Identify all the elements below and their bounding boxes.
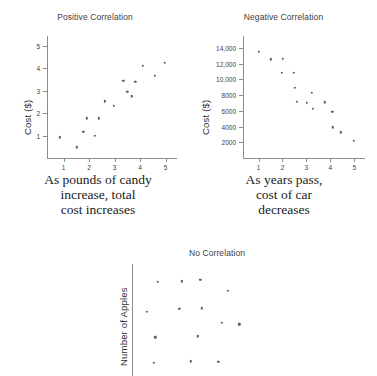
data-point bbox=[154, 74, 156, 76]
data-point bbox=[197, 335, 199, 337]
data-point bbox=[201, 307, 203, 309]
y-axis-tick bbox=[239, 64, 243, 65]
y-axis-tick bbox=[239, 127, 243, 128]
y-axis-tick-label: 1 bbox=[36, 132, 40, 139]
plot-area-none bbox=[132, 264, 282, 376]
x-axis-tick bbox=[89, 158, 90, 162]
data-point bbox=[294, 86, 296, 88]
data-point bbox=[126, 91, 128, 93]
y-axis-label-negative: Cost ($) bbox=[200, 100, 211, 135]
x-axis-tick-label: 3 bbox=[113, 164, 117, 171]
caption-line: As pounds of candy bbox=[8, 172, 188, 187]
data-point bbox=[122, 79, 124, 81]
y-axis-tick bbox=[239, 48, 243, 49]
x-axis-tick bbox=[64, 158, 65, 162]
chart-title-none: No Correlation bbox=[122, 248, 312, 258]
caption-line: increase, total bbox=[8, 187, 188, 202]
data-point bbox=[340, 131, 342, 133]
y-axis-tick-label: 14,000 bbox=[216, 44, 236, 51]
data-point bbox=[293, 72, 295, 74]
x-axis-tick-label: 2 bbox=[281, 164, 285, 171]
x-axis-tick bbox=[306, 158, 307, 162]
x-axis-tick-label: 1 bbox=[257, 164, 261, 171]
data-point bbox=[199, 278, 201, 280]
data-point bbox=[154, 336, 156, 338]
data-point bbox=[332, 126, 334, 128]
y-axis-tick bbox=[239, 111, 243, 112]
data-point bbox=[217, 361, 219, 363]
y-axis-line bbox=[132, 264, 133, 376]
data-point bbox=[331, 111, 333, 113]
data-point bbox=[353, 140, 355, 142]
caption-line: cost increases bbox=[8, 202, 188, 217]
x-axis-tick-label: 5 bbox=[164, 164, 168, 171]
y-axis-tick-label: 2000 bbox=[222, 139, 236, 146]
y-axis-tick bbox=[43, 46, 47, 47]
caption-negative: As years pass, cost of car decreases bbox=[195, 172, 373, 217]
data-point bbox=[238, 323, 240, 325]
y-axis-tick bbox=[239, 142, 243, 143]
data-point bbox=[76, 146, 78, 148]
y-axis-tick-label: 3 bbox=[36, 87, 40, 94]
data-point bbox=[82, 131, 84, 133]
data-point bbox=[324, 101, 326, 103]
y-axis-line bbox=[47, 36, 48, 158]
x-axis-tick-label: 4 bbox=[138, 164, 142, 171]
y-axis-tick-label: 2 bbox=[36, 110, 40, 117]
data-point bbox=[227, 290, 229, 292]
data-point bbox=[221, 322, 223, 324]
data-point bbox=[269, 58, 271, 60]
x-axis-tick-label: 1 bbox=[62, 164, 66, 171]
data-point bbox=[153, 361, 155, 363]
data-point bbox=[134, 81, 136, 83]
y-axis-line bbox=[243, 36, 244, 158]
data-point bbox=[306, 102, 308, 104]
x-axis-line bbox=[243, 158, 365, 159]
data-point bbox=[282, 58, 284, 60]
data-point bbox=[104, 100, 106, 102]
x-axis-tick bbox=[354, 158, 355, 162]
x-axis-tick bbox=[115, 158, 116, 162]
caption-line: As years pass, bbox=[195, 172, 373, 187]
y-axis-tick bbox=[43, 113, 47, 114]
x-axis-tick bbox=[282, 158, 283, 162]
y-axis-label-none: Number of Apples bbox=[118, 287, 129, 366]
data-point bbox=[131, 95, 133, 97]
x-axis-tick-label: 2 bbox=[87, 164, 91, 171]
y-axis-tick bbox=[43, 91, 47, 92]
y-axis-tick-label: 6000 bbox=[222, 107, 236, 114]
y-axis-tick bbox=[43, 68, 47, 69]
y-axis-tick-label: 8000 bbox=[222, 92, 236, 99]
y-axis-tick-label: 5 bbox=[36, 43, 40, 50]
data-point bbox=[257, 51, 259, 53]
caption-positive: As pounds of candy increase, total cost … bbox=[8, 172, 188, 217]
y-axis-tick bbox=[239, 79, 243, 80]
y-axis-tick-label: 4000 bbox=[222, 123, 236, 130]
data-point bbox=[189, 360, 191, 362]
data-point bbox=[146, 310, 148, 312]
plot-area-negative: 200040006000800010,00012,00014,00012345 bbox=[243, 36, 365, 158]
caption-line: cost of car bbox=[195, 187, 373, 202]
data-point bbox=[59, 136, 61, 138]
y-axis-tick-label: 12,000 bbox=[216, 60, 236, 67]
data-point bbox=[93, 135, 95, 137]
data-point bbox=[180, 280, 182, 282]
y-axis-tick bbox=[43, 136, 47, 137]
data-point bbox=[296, 101, 298, 103]
data-point bbox=[113, 105, 115, 107]
y-axis-tick-label: 4 bbox=[36, 65, 40, 72]
y-axis-tick bbox=[239, 95, 243, 96]
data-point bbox=[310, 91, 312, 93]
data-point bbox=[85, 117, 87, 119]
data-point bbox=[98, 117, 100, 119]
x-axis-tick-label: 5 bbox=[352, 164, 356, 171]
x-axis-tick bbox=[330, 158, 331, 162]
x-axis-tick-label: 4 bbox=[329, 164, 333, 171]
data-point bbox=[164, 62, 166, 64]
data-point bbox=[156, 281, 158, 283]
caption-line: decreases bbox=[195, 202, 373, 217]
x-axis-tick-label: 3 bbox=[305, 164, 309, 171]
plot-area-positive: 1234512345 bbox=[47, 36, 177, 158]
data-point bbox=[178, 308, 180, 310]
